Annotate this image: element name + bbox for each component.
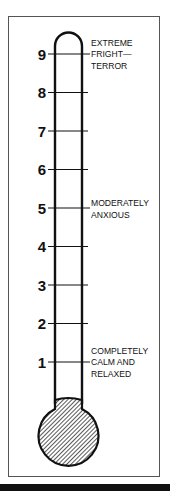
- tick-label-3: 3: [38, 277, 46, 294]
- annotations: EXTREMEFRIGHT—TERRORMODERATELYANXIOUSCOM…: [91, 38, 149, 379]
- bottom-bar: [0, 484, 170, 491]
- annotation-line: RELAXED: [91, 369, 131, 379]
- annotation-line: ANXIOUS: [91, 210, 130, 220]
- scale-labels: 123456789: [38, 46, 47, 371]
- annotation-line: MODERATELY: [91, 198, 149, 208]
- tick-label-5: 5: [38, 200, 46, 217]
- tick-label-9: 9: [38, 46, 46, 63]
- thermometer-bulb: [39, 398, 99, 466]
- tick-label-7: 7: [38, 123, 46, 140]
- tick-label-8: 8: [38, 84, 46, 101]
- thermometer: 123456789 EXTREMEFRIGHT—TERRORMODERATELY…: [0, 0, 170, 491]
- annotation-level-9: EXTREMEFRIGHT—TERROR: [91, 38, 133, 71]
- tick-label-1: 1: [38, 354, 46, 371]
- annotation-line: TERROR: [91, 61, 127, 71]
- annotation-line: FRIGHT—: [91, 49, 132, 59]
- annotation-line: COMPLETELY: [91, 346, 148, 356]
- annotation-level-1: COMPLETELYCALM ANDRELAXED: [91, 346, 148, 379]
- thermometer-tube: [55, 33, 82, 405]
- annotation-line: CALM AND: [91, 357, 135, 367]
- tick-label-4: 4: [38, 238, 47, 255]
- annotation-level-5: MODERATELYANXIOUS: [91, 198, 149, 220]
- annotation-line: EXTREME: [91, 38, 133, 48]
- tick-label-6: 6: [38, 161, 46, 178]
- tick-label-2: 2: [38, 315, 46, 332]
